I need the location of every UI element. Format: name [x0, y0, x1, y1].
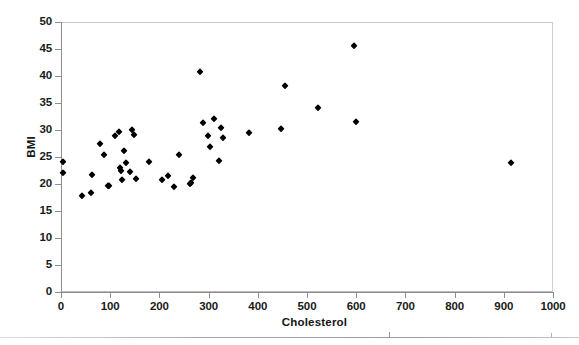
y-tick-label-45: 45	[12, 43, 52, 55]
x-tick-600	[356, 293, 357, 298]
x-tick-700	[405, 293, 406, 298]
x-tick-300	[209, 293, 210, 298]
scan-artifact-tick	[389, 332, 390, 338]
y-tick-label-40: 40	[12, 70, 52, 82]
x-tick-400	[258, 293, 259, 298]
x-tick-800	[455, 293, 456, 298]
y-tick-15	[55, 211, 61, 212]
x-tick-label-1000: 1000	[523, 301, 579, 313]
y-tick-label-5: 5	[12, 259, 52, 271]
y-tick-30	[55, 130, 61, 131]
y-tick-label-20: 20	[12, 178, 52, 190]
x-tick-900	[504, 293, 505, 298]
x-tick-100	[110, 293, 111, 298]
y-tick-10	[55, 238, 61, 239]
plot-area	[61, 22, 553, 292]
y-tick-label-0: 0	[12, 286, 52, 298]
y-tick-25	[55, 157, 61, 158]
scan-artifact-tick-secondary	[551, 333, 552, 338]
scatter-chart: 05101520253035404550 0100200300400500600…	[0, 0, 579, 345]
y-tick-label-50: 50	[12, 16, 52, 28]
y-tick-label-35: 35	[12, 97, 52, 109]
scan-artifact-rule	[0, 337, 579, 338]
x-axis-title: Cholesterol	[0, 316, 579, 328]
x-tick-200	[159, 293, 160, 298]
y-tick-5	[55, 265, 61, 266]
x-tick-500	[307, 293, 308, 298]
y-tick-label-10: 10	[12, 232, 52, 244]
x-tick-1000	[553, 293, 554, 298]
y-tick-40	[55, 76, 61, 77]
y-tick-50	[55, 22, 61, 23]
y-tick-35	[55, 103, 61, 104]
x-tick-0	[61, 293, 62, 298]
y-axis-title: BMI	[25, 117, 37, 177]
y-tick-label-15: 15	[12, 205, 52, 217]
y-tick-20	[55, 184, 61, 185]
y-tick-45	[55, 49, 61, 50]
